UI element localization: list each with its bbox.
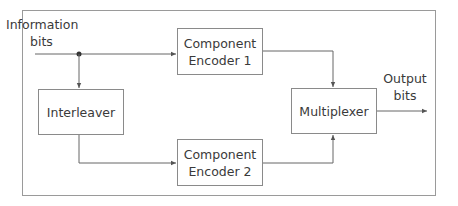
multiplexer-label: Multiplexer [299,103,368,120]
output-label-line2: bits [380,87,430,104]
encoder2-line2: Encoder 2 [184,163,257,180]
output-label: Output bits [380,70,430,104]
component-encoder-2-block: Component Encoder 2 [177,139,263,186]
encoder1-line2: Encoder 1 [184,52,257,69]
encoder1-line1: Component [184,35,257,52]
interleaver-block: Interleaver [38,89,124,135]
encoder2-line1: Component [184,146,257,163]
input-label-line2: bits [4,33,104,50]
multiplexer-block: Multiplexer [291,88,377,134]
component-encoder-1-block: Component Encoder 1 [177,28,263,75]
input-label: Information bits [4,16,104,50]
input-label-line1: Information [4,16,104,33]
interleaver-label: Interleaver [47,104,115,121]
output-label-line1: Output [380,70,430,87]
